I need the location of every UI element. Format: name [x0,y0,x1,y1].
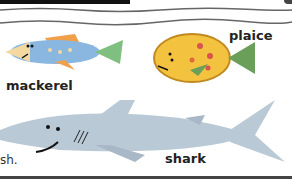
wave-divider [0,5,292,27]
header-black-bar [0,0,130,4]
mackerel-illustration [5,30,130,80]
mackerel-label: mackerel [6,78,73,93]
bottom-border [0,176,292,179]
plaice-label: plaice [229,28,273,43]
header-corner-shape [284,0,292,4]
shark-label: shark [165,151,206,166]
shark-illustration [0,100,292,170]
text-fragment: sh. [0,153,18,167]
